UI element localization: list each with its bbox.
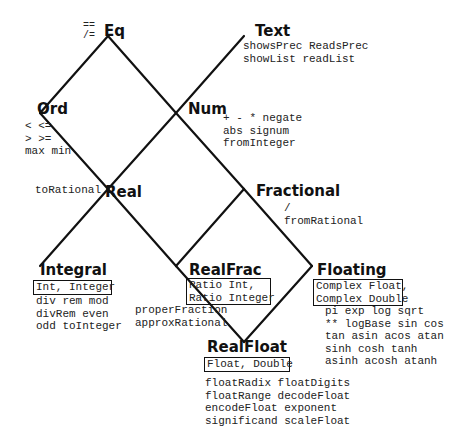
fractional-ops: / fromRational (284, 202, 363, 227)
eq-op: /= (83, 30, 95, 41)
class-ord: Ord (37, 101, 68, 117)
floating-instance: Complex Double (316, 293, 408, 305)
text-ops: showsPrec ReadsPrec showList readList (243, 40, 368, 65)
real-ops: toRational (35, 184, 101, 197)
realfrac-instances-box: Ratio Int, Ratio Integer (186, 278, 271, 305)
floating-ops: pi exp log sqrt ** logBase sin cos tan a… (325, 305, 444, 368)
realfrac-instance: Ratio Integer (189, 292, 275, 304)
realfloat-op: floatRadix floatDigits (205, 377, 350, 389)
realfrac-op: properFraction (135, 304, 227, 316)
realfrac-op: approxRational (135, 317, 227, 329)
ord-op: max min (25, 145, 71, 157)
ord-op: > >= (25, 133, 51, 145)
class-num: Num (188, 101, 227, 117)
num-op: abs signum (223, 125, 289, 137)
text-op: showsPrec ReadsPrec (243, 40, 368, 52)
edge-num-real (108, 113, 176, 189)
text-op: showList readList (243, 53, 355, 65)
class-realfloat: RealFloat (207, 339, 287, 355)
num-op: fromInteger (223, 137, 296, 149)
realfloat-op: encodeFloat exponent (205, 402, 337, 414)
realfrac-ops: properFraction approxRational (135, 304, 227, 329)
ord-op: < <= (25, 120, 51, 132)
edge-real-integral (40, 189, 108, 266)
class-floating: Floating (317, 262, 387, 278)
class-hierarchy-diagram: Eq == /= Text showsPrec ReadsPrec showLi… (0, 0, 460, 432)
floating-op: pi exp log sqrt (325, 305, 424, 317)
class-fractional: Fractional (256, 183, 340, 199)
class-realfrac: RealFrac (189, 262, 262, 278)
realfloat-op: floatRange decodeFloat (205, 390, 350, 402)
realfloat-instances-box: Float, Double (204, 357, 290, 372)
realfloat-op: significand scaleFloat (205, 415, 350, 427)
edge-eq-num (108, 36, 176, 113)
num-op: + - * negate (223, 112, 302, 124)
edge-fractional-realfrac (176, 189, 244, 266)
integral-op: divRem even (36, 308, 109, 320)
floating-op: ** logBase sin cos (325, 318, 444, 330)
floating-op: tan asin acos atan (325, 330, 444, 342)
integral-op: odd toInteger (36, 320, 122, 332)
class-integral: Integral (40, 262, 107, 278)
floating-instances-box: Complex Float, Complex Double (313, 279, 403, 306)
ord-ops: < <= > >= max min (25, 120, 71, 158)
realfloat-instance: Float, Double (207, 358, 293, 370)
integral-instances-box: Int, Integer (33, 280, 112, 295)
fractional-op: / (284, 202, 291, 214)
class-eq: Eq (104, 23, 125, 39)
floating-op: sinh cosh tanh (325, 343, 417, 355)
num-ops: + - * negate abs signum fromInteger (223, 112, 302, 150)
eq-ops: == /= (83, 21, 95, 41)
integral-instance: Int, Integer (36, 281, 115, 293)
realfrac-instance: Ratio Int, (189, 279, 255, 291)
class-real: Real (105, 184, 142, 200)
class-text: Text (255, 23, 290, 39)
fractional-op: fromRational (284, 215, 363, 227)
floating-op: asinh acosh atanh (325, 355, 437, 367)
integral-op: div rem mod (36, 295, 109, 307)
real-op: toRational (35, 184, 101, 196)
realfloat-ops: floatRadix floatDigits floatRange decode… (205, 377, 350, 427)
floating-instance: Complex Float, (316, 280, 408, 292)
edge-fractional-floating (244, 189, 312, 266)
integral-ops: div rem mod divRem even odd toInteger (36, 295, 122, 333)
